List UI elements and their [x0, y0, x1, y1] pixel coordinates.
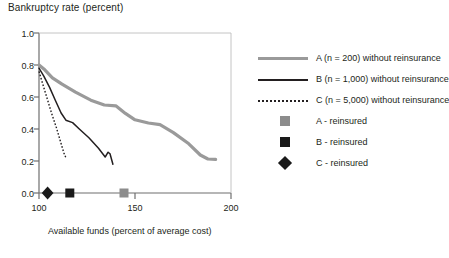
legend-label: C (n = 5,000) without reinsurance	[310, 95, 449, 106]
y-axis-ticks	[34, 33, 39, 193]
series-line-b	[39, 68, 113, 164]
legend-key-line-black-thin	[258, 69, 310, 90]
legend-label: A - reinsured	[310, 116, 367, 127]
legend-key-line-black-dotted	[258, 90, 310, 111]
marker-c-reinsured	[42, 187, 54, 200]
legend-label: C - reinsured	[310, 158, 368, 169]
legend-key-diamond-black	[258, 153, 310, 174]
legend-item-b-reinsured: B - reinsured	[258, 132, 438, 153]
legend-key-line-gray-thick	[258, 48, 310, 69]
legend-key-square-gray	[258, 111, 310, 132]
legend-label: A (n = 200) without reinsurance	[310, 53, 441, 64]
chart-legend: A (n = 200) without reinsurance B (n = 1…	[258, 48, 438, 174]
legend-item-a-reinsured: A - reinsured	[258, 111, 438, 132]
legend-label: B (n = 1,000) without reinsurance	[310, 74, 449, 85]
legend-item-c-reinsured: C - reinsured	[258, 153, 438, 174]
legend-label: B - reinsured	[310, 137, 368, 148]
legend-key-square-black	[258, 132, 310, 153]
axis-lines	[39, 33, 231, 193]
legend-item-b-without-reinsurance: B (n = 1,000) without reinsurance	[258, 69, 438, 90]
series-line-a	[39, 65, 216, 159]
marker-a-reinsured	[120, 189, 129, 198]
legend-item-c-without-reinsurance: C (n = 5,000) without reinsurance	[258, 90, 438, 111]
marker-b-reinsured	[65, 189, 74, 198]
legend-item-a-without-reinsurance: A (n = 200) without reinsurance	[258, 48, 438, 69]
